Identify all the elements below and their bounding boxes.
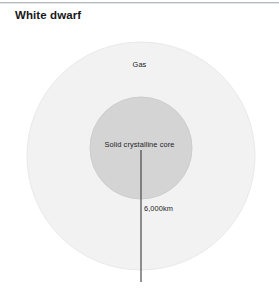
radius-measurement-label: 6,000km — [144, 204, 173, 213]
gas-layer-label: Gas — [0, 60, 279, 69]
diagram-page: White dwarf Gas Solid crystalline core 6… — [0, 0, 279, 289]
core-layer-label: Solid crystalline core — [0, 140, 279, 149]
